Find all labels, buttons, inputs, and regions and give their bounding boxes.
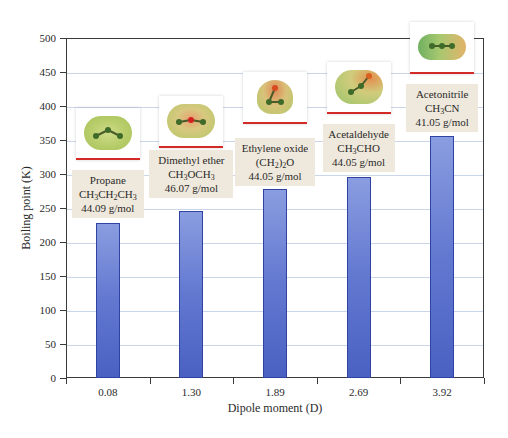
molecule-electrostatic-map-image <box>159 96 223 148</box>
x-tick <box>233 378 234 384</box>
boiling-point-vs-dipole-chart: Boiling point (K) Dipole moment (D) 0501… <box>0 0 508 438</box>
y-tick <box>60 106 66 107</box>
bar <box>430 136 454 378</box>
x-axis-title: Dipole moment (D) <box>66 401 484 416</box>
molecule-label: AcetaldehydeCH3CHO44.05 g/mol <box>323 124 395 172</box>
y-tick <box>60 242 66 243</box>
y-tick <box>60 310 66 311</box>
y-tick-label: 250 <box>26 202 56 214</box>
y-tick-label: 50 <box>26 338 56 350</box>
bar <box>263 189 287 378</box>
molecule-name: Dimethyl ether <box>153 153 229 167</box>
molecule-name: Acetonitrile <box>410 87 474 101</box>
x-tick <box>484 378 485 384</box>
molecule-label: Dimethyl etherCH3OCH346.07 g/mol <box>149 150 233 198</box>
y-tick-label: 200 <box>26 236 56 248</box>
molecule-formula: CH3OCH3 <box>153 167 229 181</box>
molecule-name: Acetaldehyde <box>327 127 391 141</box>
y-tick-label: 150 <box>26 270 56 282</box>
y-tick-label: 450 <box>26 66 56 78</box>
x-tick-label: 1.89 <box>245 386 305 398</box>
molecule-label: Ethylene oxide(CH2)2O44.05 g/mol <box>235 138 315 186</box>
y-tick <box>60 208 66 209</box>
y-tick-label: 100 <box>26 304 56 316</box>
molecule-formula: CH3CH2CH3 <box>76 187 140 201</box>
x-tick-label: 3.92 <box>412 386 472 398</box>
molecule-skeleton-icon <box>243 72 307 124</box>
molecule-label: PropaneCH3CH2CH344.09 g/mol <box>72 170 144 218</box>
molar-mass: 44.09 g/mol <box>76 201 140 215</box>
molar-mass: 44.05 g/mol <box>239 169 311 183</box>
molecule-label: AcetonitrileCH3CN41.05 g/mol <box>406 84 478 132</box>
y-tick-label: 500 <box>26 32 56 44</box>
x-tick-label: 1.30 <box>161 386 221 398</box>
y-tick <box>60 344 66 345</box>
molecule-skeleton-icon <box>76 108 140 160</box>
bar <box>96 223 120 378</box>
molecule-skeleton-icon <box>410 22 474 74</box>
molecule-electrostatic-map-image <box>410 22 474 74</box>
y-tick-label: 300 <box>26 168 56 180</box>
x-tick <box>400 378 401 384</box>
molar-mass: 46.07 g/mol <box>153 181 229 195</box>
y-tick-label: 0 <box>26 372 56 384</box>
molecule-formula: (CH2)2O <box>239 155 311 169</box>
x-tick <box>150 378 151 384</box>
x-tick <box>317 378 318 384</box>
molar-mass: 44.05 g/mol <box>327 155 391 169</box>
molar-mass: 41.05 g/mol <box>410 115 474 129</box>
x-tick-label: 2.69 <box>329 386 389 398</box>
y-tick <box>60 276 66 277</box>
molecule-electrostatic-map-image <box>327 62 391 114</box>
y-tick-label: 350 <box>26 134 56 146</box>
molecule-formula: CH3CN <box>410 101 474 115</box>
y-tick-label: 400 <box>26 100 56 112</box>
x-tick-label: 0.08 <box>78 386 138 398</box>
y-tick <box>60 38 66 39</box>
molecule-electrostatic-map-image <box>243 72 307 124</box>
molecule-formula: CH3CHO <box>327 141 391 155</box>
molecule-name: Ethylene oxide <box>239 141 311 155</box>
bar <box>347 177 371 378</box>
molecule-skeleton-icon <box>159 96 223 148</box>
y-tick <box>60 174 66 175</box>
bar <box>179 211 203 378</box>
y-tick <box>60 140 66 141</box>
molecule-skeleton-icon <box>327 62 391 114</box>
x-tick <box>66 378 67 384</box>
molecule-name: Propane <box>76 173 140 187</box>
molecule-electrostatic-map-image <box>76 108 140 160</box>
y-tick <box>60 72 66 73</box>
